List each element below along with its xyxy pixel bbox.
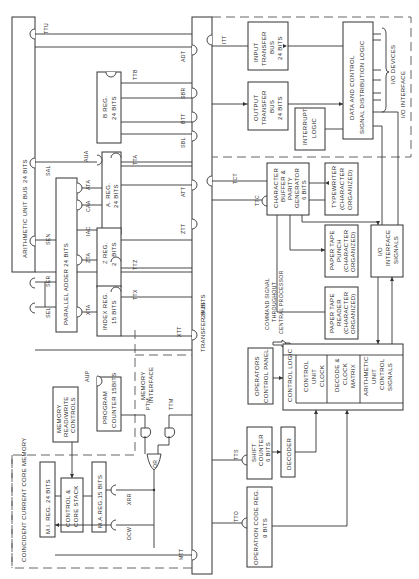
svg-text:TTX: TTX xyxy=(132,289,138,300)
svg-text:CONTROL: CONTROL xyxy=(303,360,309,392)
svg-text:CONTROL LOGIC: CONTROL LOGIC xyxy=(287,348,293,402)
svg-text:BUFFER &: BUFFER & xyxy=(280,170,286,202)
svg-text:BUS: BUS xyxy=(269,41,275,54)
svg-text:TTA: TTA xyxy=(132,154,138,165)
svg-text:XTA: XTA xyxy=(85,304,91,315)
character-buffer-parity-generator: CHARACTER BUFFER & PARITY GENERATOR 6 BI… xyxy=(267,163,309,215)
svg-text:CLOCK: CLOCK xyxy=(342,363,348,385)
control-core-stack: CONTROL & CORE STACK xyxy=(61,478,83,532)
gate-xrr xyxy=(111,485,116,495)
svg-text:OPERATORS: OPERATORS xyxy=(254,356,260,396)
svg-text:CONTROL &: CONTROL & xyxy=(65,490,71,527)
svg-text:OR: OR xyxy=(152,460,158,468)
svg-text:XTT: XTT xyxy=(176,326,182,337)
svg-text:ORGANIZED): ORGANIZED) xyxy=(350,231,356,272)
svg-text:CONTROL PANEL: CONTROL PANEL xyxy=(263,349,269,403)
memory-read-write-controls: MEMORY READ/WRITE CONTROLS xyxy=(53,387,78,442)
svg-text:SAL: SAL xyxy=(45,165,51,176)
svg-text:24 BITS: 24 BITS xyxy=(113,184,119,208)
svg-text:READER: READER xyxy=(336,299,342,326)
shift-counter: SHIFT COUNTER 6 BITS xyxy=(247,427,272,479)
svg-text:MATRIX: MATRIX xyxy=(350,364,356,388)
svg-text:A. REG.: A. REG. xyxy=(105,183,111,207)
output-transfer-bus: OUTPUT TRANSFER BUS 24 BITS xyxy=(248,82,288,130)
typewriter: TYPEWRITER (CHARACTER ORGANIZED) xyxy=(325,163,358,215)
svg-text:COMMAND SIGNAL: COMMAND SIGNAL xyxy=(264,278,270,330)
io-device-lines: I/O DEVICES xyxy=(373,28,396,112)
svg-text:TTC: TTC xyxy=(254,195,260,206)
data-control-distribution-logic: DATA AND CONTROL SIGNAL DISTRIBUTION LOG… xyxy=(343,22,373,139)
svg-text:SIGNALS: SIGNALS xyxy=(387,363,393,391)
svg-text:ITT: ITT xyxy=(221,35,227,44)
svg-text:INTERFACE: INTERFACE xyxy=(148,367,154,403)
svg-text:CAA: CAA xyxy=(85,200,91,212)
svg-text:M.A.REG.15 BITS: M.A.REG.15 BITS xyxy=(97,475,103,528)
svg-text:MEMORY: MEMORY xyxy=(56,404,62,433)
svg-text:SIGNALS: SIGNALS xyxy=(393,236,399,264)
operators-control-panel: OPERATORS CONTROL PANEL xyxy=(248,348,273,404)
svg-text:CENTRAL PROCESSOR: CENTRAL PROCESSOR xyxy=(278,270,284,334)
svg-text:TCT: TCT xyxy=(232,172,238,184)
svg-text:AUA: AUA xyxy=(83,150,89,162)
svg-text:UNIT: UNIT xyxy=(371,369,377,384)
svg-text:CONTROLS: CONTROLS xyxy=(70,397,76,433)
paper-tape-reader: PAPER TAPE READER (CHARACTER ORGANIZED) xyxy=(325,287,358,339)
gate-tto xyxy=(242,518,247,528)
svg-text:ORGANIZED): ORGANIZED) xyxy=(350,293,356,334)
svg-text:TYPEWRITER: TYPEWRITER xyxy=(331,165,337,208)
svg-text:PUNCH: PUNCH xyxy=(336,239,342,262)
svg-text:TTO: TTO xyxy=(233,511,239,522)
a-register: A. REG. 24 BITS xyxy=(102,152,121,234)
svg-text:I/O: I/O xyxy=(377,247,383,256)
svg-text:ZTT: ZTT xyxy=(180,223,186,234)
svg-text:SIGNAL DISTRIBUTION LOGIC: SIGNAL DISTRIBUTION LOGIC xyxy=(359,40,365,134)
svg-text:CONTROL: CONTROL xyxy=(379,358,385,390)
svg-text:SHIFT: SHIFT xyxy=(251,443,257,462)
and-gate-ptm xyxy=(141,428,151,438)
svg-text:XRR: XRR xyxy=(126,493,132,505)
svg-text:INDEX REG.: INDEX REG. xyxy=(102,292,108,330)
svg-text:PROGRAM: PROGRAM xyxy=(102,391,108,424)
svg-text:ZTA: ZTA xyxy=(85,252,91,263)
svg-text:24 BITS: 24 BITS xyxy=(111,96,117,120)
svg-text:SER: SER xyxy=(45,275,51,287)
svg-text:COUNTER 15BITS: COUNTER 15BITS xyxy=(111,372,117,428)
svg-text:TTU: TTU xyxy=(43,23,49,34)
svg-text:CORE STACK: CORE STACK xyxy=(73,485,79,527)
svg-text:B REG.: B REG. xyxy=(102,96,108,118)
svg-text:READ/WRITE: READ/WRITE xyxy=(63,396,69,437)
svg-text:SEL: SEL xyxy=(45,307,51,318)
svg-text:TRANSFER: TRANSFER xyxy=(261,90,267,125)
svg-text:PAPER TAPE: PAPER TAPE xyxy=(329,293,335,333)
svg-text:COUNTER: COUNTER xyxy=(258,434,264,466)
arithmetic-bus-label: ARITHMETIC UNIT BUS xyxy=(22,186,28,258)
svg-text:DECODE &: DECODE & xyxy=(334,358,340,392)
svg-text:OUTPUT: OUTPUT xyxy=(253,95,259,121)
gate-ser xyxy=(30,278,35,288)
svg-text:SEN: SEN xyxy=(45,233,51,245)
svg-text:DATA AND CONTROL: DATA AND CONTROL xyxy=(349,55,355,120)
svg-text:Z REG.: Z REG. xyxy=(102,242,108,264)
gate-xta xyxy=(77,307,82,317)
operation-code-register: OPERATION CODE REG. 9 BITS xyxy=(247,487,272,567)
gate-ata xyxy=(77,183,82,193)
svg-text:MEMORY: MEMORY xyxy=(140,371,146,400)
svg-text:BTT: BTT xyxy=(180,113,186,124)
gate-tts xyxy=(242,455,247,465)
svg-text:PARITY: PARITY xyxy=(287,177,293,200)
svg-text:PARALLEL ADDER 24 BITS: PARALLEL ADDER 24 BITS xyxy=(63,243,69,325)
svg-text:INTERFACE: INTERFACE xyxy=(385,230,391,266)
svg-text:GENERATOR: GENERATOR xyxy=(294,167,300,208)
gate-zta xyxy=(77,255,82,265)
svg-text:ATT: ATT xyxy=(180,186,186,197)
svg-text:OPERATION CODE REG.: OPERATION CODE REG. xyxy=(253,489,259,565)
or-gate: OR xyxy=(147,454,161,470)
io-interface-label: I/O INTERFACE xyxy=(400,71,406,118)
svg-text:DCW: DCW xyxy=(126,527,132,540)
svg-text:TTZ: TTZ xyxy=(132,260,138,270)
io-devices-label: I/O DEVICES xyxy=(390,45,396,84)
svg-text:6 BITS: 6 BITS xyxy=(301,180,307,200)
svg-text:AUP: AUP xyxy=(84,370,90,382)
svg-text:(CHARACTER: (CHARACTER xyxy=(343,229,349,272)
and-gate-ttm xyxy=(165,428,175,438)
